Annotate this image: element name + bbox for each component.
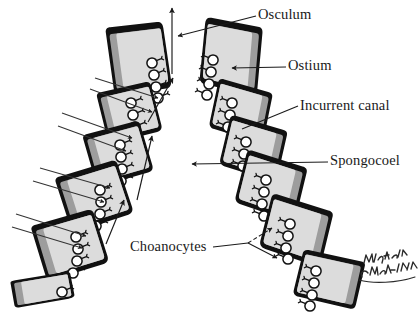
label-incurrent-canal: Incurrent canal — [300, 98, 390, 113]
label-osculum: Osculum — [258, 7, 311, 22]
label-choanocytes: Choanocytes — [130, 239, 207, 254]
label-spongocoel: Spongocoel — [330, 153, 400, 168]
label-ostium: Ostium — [288, 58, 332, 73]
diagram-canvas: Osculum Ostium Incurrent canal Spongocoe… — [0, 0, 420, 312]
